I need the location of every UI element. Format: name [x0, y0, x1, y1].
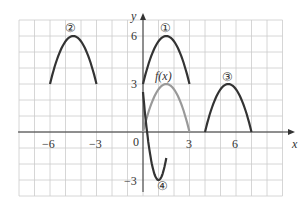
chart: x y 0 −6 −3 3 6 6 3 −3 ② ① f(x) ③ ④ — [0, 0, 305, 203]
y-label: y — [130, 9, 137, 23]
curve — [205, 84, 252, 132]
origin-label: 0 — [133, 135, 139, 149]
x-tick: −6 — [42, 137, 55, 151]
curves — [50, 36, 252, 180]
curve — [143, 92, 166, 180]
x-tick: 6 — [232, 137, 238, 151]
y-tick: 6 — [131, 29, 137, 43]
curve-label-1: ① — [160, 21, 171, 35]
curve-label-fx: f(x) — [155, 69, 172, 83]
x-tick: 3 — [186, 137, 192, 151]
curve-label-3: ③ — [222, 70, 233, 84]
y-tick: −3 — [124, 174, 137, 188]
curve — [143, 84, 190, 132]
x-tick: −3 — [89, 137, 102, 151]
curve-label-2: ② — [65, 21, 76, 35]
y-tick: 3 — [131, 77, 137, 91]
x-label: x — [291, 137, 298, 151]
y-axis-arrow-icon — [140, 13, 146, 20]
curve — [50, 36, 97, 84]
x-axis-arrow-icon — [288, 129, 295, 135]
curve-label-4: ④ — [157, 179, 168, 193]
